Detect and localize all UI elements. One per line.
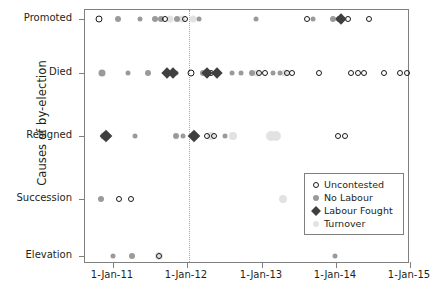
legend-marker-icon	[310, 192, 322, 204]
data-point-marker	[271, 71, 276, 76]
data-point-marker	[311, 17, 316, 22]
y-axis-tick-mark	[79, 73, 85, 74]
data-point-marker	[174, 16, 180, 22]
data-point-marker	[239, 71, 244, 76]
data-point-marker	[333, 254, 338, 259]
data-point-marker	[229, 132, 237, 140]
data-point-marker	[278, 71, 283, 76]
data-point-marker	[304, 16, 310, 22]
legend-marker-icon	[310, 218, 322, 230]
legend-item-label: Uncontested	[324, 179, 384, 191]
legend-item: Turnover	[310, 217, 398, 230]
x-axis-tick-label: 1-Jan-15	[374, 270, 434, 280]
chart-legend: UncontestedNo LabourLabour FoughtTurnove…	[304, 173, 404, 235]
y-axis-tick-label: Elevation	[0, 250, 72, 260]
data-point-marker	[335, 133, 341, 139]
data-point-marker	[111, 254, 116, 259]
data-point-marker	[188, 70, 195, 77]
legend-item: Labour Fought	[310, 204, 398, 217]
data-point-marker	[254, 17, 259, 22]
data-point-marker	[262, 70, 268, 76]
x-axis-tick-mark	[410, 262, 411, 268]
data-point-marker	[138, 17, 143, 22]
data-point-marker	[204, 133, 210, 139]
data-point-marker	[173, 133, 179, 139]
data-point-marker	[116, 196, 122, 202]
x-axis-tick-mark	[187, 262, 188, 268]
legend-item-label: Turnover	[324, 218, 365, 230]
data-point-marker	[342, 133, 348, 139]
data-point-marker	[271, 131, 281, 141]
data-point-marker	[361, 70, 367, 76]
data-point-marker	[366, 16, 372, 22]
data-point-marker	[96, 16, 103, 23]
data-point-marker	[156, 253, 162, 259]
y-axis-tick-label: Succession	[0, 193, 72, 203]
data-point-marker	[99, 70, 106, 77]
x-axis-tick-mark	[336, 262, 337, 268]
y-axis-tick-label: Resigned	[0, 130, 72, 140]
data-point-marker	[381, 70, 387, 76]
data-point-marker	[397, 70, 403, 76]
x-axis-tick-label: 1-Jan-11	[77, 270, 147, 280]
legend-marker-icon	[310, 179, 322, 191]
data-point-marker	[190, 16, 197, 23]
data-point-marker	[316, 70, 322, 76]
legend-marker-icon	[310, 205, 322, 217]
data-point-marker	[129, 253, 135, 259]
x-axis-tick-label: 1-Jan-14	[300, 270, 370, 280]
y-axis-tick-mark	[79, 136, 85, 137]
data-point-marker	[223, 134, 228, 139]
y-axis-tick-mark	[79, 199, 85, 200]
legend-item: Uncontested	[310, 178, 398, 191]
data-point-marker	[249, 70, 255, 76]
data-point-marker	[133, 134, 138, 139]
data-point-marker	[289, 70, 295, 76]
x-axis-tick-label: 1-Jan-12	[151, 270, 221, 280]
x-axis-tick-mark	[262, 262, 263, 268]
legend-item-label: No Labour	[324, 192, 373, 204]
y-axis-tick-mark	[79, 19, 85, 20]
data-point-marker	[335, 13, 346, 24]
data-point-marker	[162, 16, 168, 22]
y-axis-tick-label: Died	[0, 67, 72, 77]
data-point-marker	[100, 130, 113, 143]
data-point-marker	[211, 67, 222, 78]
data-point-marker	[230, 71, 235, 76]
data-point-marker	[211, 133, 217, 139]
data-point-marker	[115, 16, 121, 22]
data-point-marker	[182, 16, 188, 22]
data-point-marker	[404, 70, 410, 76]
data-point-marker	[98, 196, 104, 202]
data-point-marker	[128, 196, 134, 202]
data-point-marker	[181, 134, 186, 139]
data-point-marker	[145, 70, 151, 76]
y-axis-tick-label: Promoted	[0, 13, 72, 23]
x-axis-tick-label: 1-Jan-13	[226, 270, 296, 280]
data-point-marker	[197, 17, 202, 22]
data-point-marker	[279, 195, 287, 203]
data-point-marker	[348, 70, 354, 76]
legend-item-label: Labour Fought	[324, 205, 393, 217]
y-axis-tick-mark	[79, 256, 85, 257]
data-point-marker	[126, 71, 131, 76]
legend-item: No Labour	[310, 191, 398, 204]
y-axis-tick-label-group: PromotedDiedResignedSuccessionElevation	[0, 0, 72, 292]
x-axis-tick-mark	[113, 262, 114, 268]
